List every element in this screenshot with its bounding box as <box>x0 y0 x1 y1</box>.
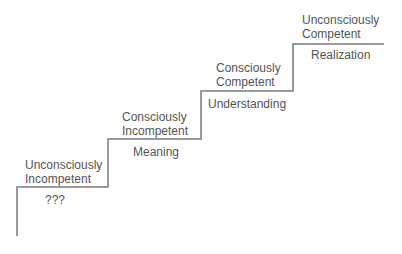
step-3-stage-line-2: Competent <box>216 75 281 89</box>
step-3-stage-line-1: Consciously <box>216 61 281 75</box>
step-1-stage-label: Unconsciously Incompetent <box>25 158 102 186</box>
step-2-stage-line-2: Incompetent <box>122 124 188 138</box>
step-3-stage-label: Consciously Competent <box>216 61 281 89</box>
step-4-stage-line-2: Competent <box>302 27 379 41</box>
step-1-stage-line-1: Unconsciously <box>25 158 102 172</box>
step-1-below-label: ??? <box>45 193 65 207</box>
step-1-stage-line-2: Incompetent <box>25 172 102 186</box>
step-2-below-label: Meaning <box>133 145 179 159</box>
step-4-stage-label: Unconsciously Competent <box>302 13 379 41</box>
step-2-stage-line-1: Consciously <box>122 110 188 124</box>
step-2-stage-label: Consciously Incompetent <box>122 110 188 138</box>
step-4-stage-line-1: Unconsciously <box>302 13 379 27</box>
step-3-below-label: Understanding <box>208 97 286 111</box>
staircase-line <box>17 44 384 236</box>
step-4-below-label: Realization <box>311 48 370 62</box>
